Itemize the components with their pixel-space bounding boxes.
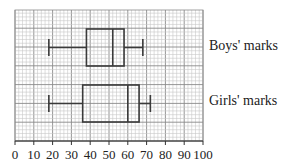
x-tick-label: 10 [27, 147, 40, 163]
boys-marks-label: Boys' marks [209, 38, 278, 54]
x-axis [15, 141, 203, 145]
x-tick-label: 0 [12, 147, 19, 163]
boys-boxplot [49, 29, 143, 66]
girls-marks-label: Girls' marks [209, 93, 277, 109]
x-tick-label: 80 [159, 147, 172, 163]
x-tick-label: 40 [84, 147, 97, 163]
x-tick-label: 100 [193, 147, 213, 163]
x-tick-label: 30 [65, 147, 78, 163]
x-tick-label: 50 [103, 147, 116, 163]
x-tick-label: 70 [140, 147, 153, 163]
box-plot-chart [0, 0, 291, 167]
x-tick-label: 60 [121, 147, 134, 163]
x-tick-label: 90 [178, 147, 191, 163]
x-tick-label: 20 [46, 147, 59, 163]
